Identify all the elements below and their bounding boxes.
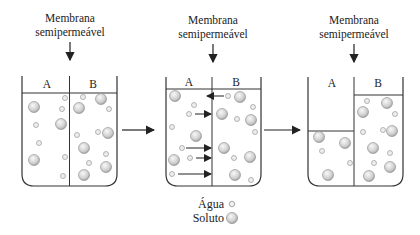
legend-solute-label: Soluto <box>193 211 224 225</box>
legend: Água Soluto <box>193 197 238 225</box>
beaker-initial: Membrana semipermeável A B <box>22 12 117 186</box>
membrane-label-line1: Membrana <box>329 14 379 26</box>
beaker-final: Membrana semipermeável A B <box>308 14 403 186</box>
particles <box>29 94 114 181</box>
beaker-flow: Membrana semipermeável A B <box>166 14 261 186</box>
compartment-b-label: B <box>232 76 240 88</box>
compartment-a-label: A <box>328 77 337 89</box>
membrane-label-line2: semipermeável <box>319 28 389 41</box>
particles <box>314 98 398 182</box>
solute-particle-icon <box>227 213 238 224</box>
compartment-a-label: A <box>43 78 52 90</box>
compartment-a-label: A <box>185 76 194 88</box>
compartment-b-label: B <box>89 78 97 90</box>
beaker-outline <box>166 77 261 186</box>
legend-water-label: Água <box>198 197 225 211</box>
osmosis-diagram: Membrana semipermeável A B <box>0 0 420 235</box>
membrane-label-line1: Membrana <box>188 14 238 26</box>
membrane-label-line2: semipermeável <box>35 26 105 39</box>
membrane-label-line2: semipermeável <box>178 28 248 41</box>
particles <box>169 91 258 183</box>
compartment-b-label: B <box>374 77 382 89</box>
water-particle-icon <box>229 201 235 207</box>
membrane-label-line1: Membrana <box>45 12 95 24</box>
